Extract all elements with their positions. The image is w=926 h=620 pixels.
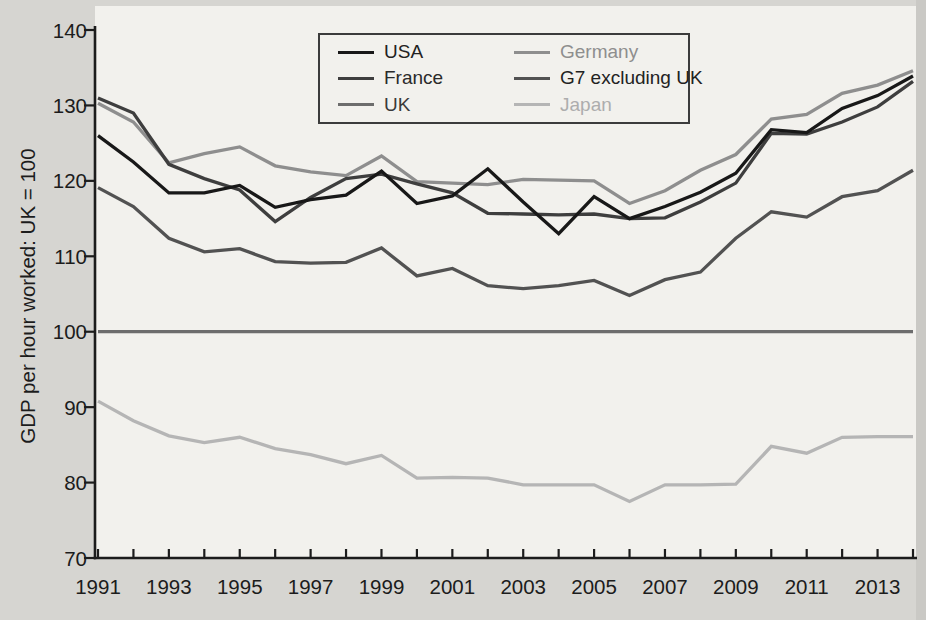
y-tick-label: 70 (64, 547, 87, 570)
legend-label: Germany (560, 41, 638, 63)
legend-label: Japan (560, 94, 612, 116)
legend-item-japan: Japan (514, 92, 703, 118)
legend-label: USA (384, 41, 423, 63)
line-japan (98, 401, 913, 501)
y-tick-label: 110 (54, 245, 87, 268)
legend-swatch (514, 77, 550, 80)
x-tick-label: 1991 (75, 575, 121, 598)
x-tick-label: 1993 (146, 575, 192, 598)
legend: USAFranceUKGermanyG7 excluding UKJapan (318, 33, 690, 124)
legend-item-france: France (338, 65, 514, 91)
y-tick-label: 140 (53, 19, 87, 42)
y-tick-label: 100 (53, 320, 87, 343)
productivity-chart-figure: 7080901001101201301401991199319951997199… (0, 0, 926, 620)
x-tick-label: 1997 (288, 575, 334, 598)
legend-swatch (338, 51, 374, 54)
x-tick-label: 2003 (500, 575, 546, 598)
legend-label: UK (384, 94, 410, 116)
legend-item-germany: Germany (514, 39, 703, 65)
y-tick-label: 130 (53, 94, 87, 117)
y-tick-label: 120 (53, 169, 87, 192)
x-tick-label: 2007 (642, 575, 688, 598)
series-lines (98, 71, 913, 502)
y-tick-label: 90 (64, 396, 87, 419)
x-tick-label: 1995 (217, 575, 263, 598)
x-tick-label: 2009 (713, 575, 759, 598)
legend-swatch (514, 103, 550, 106)
y-tick-label: 80 (64, 471, 87, 494)
legend-label: France (384, 67, 443, 89)
legend-item-g7-excluding-uk: G7 excluding UK (514, 65, 703, 91)
x-tick-label: 2013 (855, 575, 901, 598)
x-tick-label: 2001 (430, 575, 476, 598)
x-tick-label: 1999 (359, 575, 405, 598)
legend-swatch (338, 103, 374, 106)
y-axis-title: GDP per hour worked: UK = 100 (8, 0, 48, 596)
legend-item-uk: UK (338, 92, 514, 118)
legend-swatch (514, 51, 550, 54)
x-tick-label: 2005 (571, 575, 617, 598)
legend-label: G7 excluding UK (560, 67, 703, 89)
legend-item-usa: USA (338, 39, 514, 65)
x-tick-label: 2011 (785, 575, 829, 598)
legend-swatch (338, 77, 374, 80)
